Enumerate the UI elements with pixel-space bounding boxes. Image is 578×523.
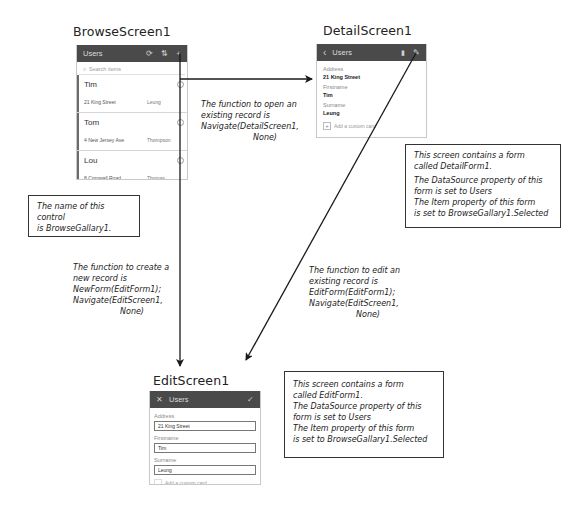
edit-header-title: Users — [169, 395, 239, 404]
plus-icon: + — [323, 122, 331, 130]
note-line: The function to edit an — [309, 265, 419, 276]
note-line: new record is — [73, 273, 183, 284]
add-custom-card[interactable]: + Add a custom card — [323, 122, 420, 130]
detail-form: Address 21 King Street Firstname Tim Sur… — [317, 61, 426, 131]
chevron-right-icon[interactable] — [177, 119, 184, 126]
edit-screen: ✕ Users ✓ Address 21 King Street Firstna… — [149, 391, 261, 485]
search-placeholder: Search items — [89, 66, 121, 72]
custom-card-label: Add a custom card — [165, 480, 207, 485]
field-label: Firstname — [154, 435, 256, 441]
note-line: called DetailForm1. — [414, 161, 552, 172]
chevron-right-icon[interactable] — [177, 157, 184, 164]
item-indicator — [77, 151, 79, 180]
browse-screen: Users ⟳ ⇅ + ⌕ Search items Tim 21 King S… — [76, 45, 188, 180]
note-line: The Item property of this form — [414, 197, 552, 208]
edit-icon[interactable]: ✎ — [413, 49, 420, 57]
note-line: form is set to Users — [414, 186, 552, 197]
note-line: existing record is — [309, 276, 419, 287]
item-indicator — [77, 113, 79, 150]
item-surname: Thompson — [147, 137, 171, 143]
box-edit-form: This screen contains a form called EditF… — [284, 371, 444, 458]
address-input[interactable]: 21 King Street — [154, 421, 256, 431]
close-icon[interactable]: ✕ — [156, 396, 163, 404]
item-address: 4 New Jersey Ave — [84, 137, 124, 143]
field-value: Leung — [323, 110, 420, 116]
item-surname: Thomas — [147, 175, 165, 180]
chevron-right-icon[interactable] — [177, 81, 184, 88]
note-line: This screen contains a form — [293, 379, 435, 390]
note-line: None) — [201, 132, 311, 143]
gallery-item[interactable]: Tom 4 New Jersey Ave Thompson — [77, 113, 187, 151]
edit-screen-title: EditScreen1 — [153, 373, 229, 388]
back-icon[interactable]: ‹ — [323, 48, 326, 58]
browse-screen-title: BrowseScreen1 — [73, 24, 171, 39]
box-detail-form: This screen contains a form called Detai… — [405, 144, 561, 228]
note-line: The DataSource property of this — [414, 175, 552, 186]
field-value: Tim — [323, 92, 420, 98]
note-create-record: The function to create a new record is N… — [73, 262, 183, 317]
note-line: The function to open an — [201, 99, 311, 110]
item-address: 21 King Street — [84, 99, 116, 105]
field-label: Surname — [323, 102, 420, 108]
sort-icon[interactable]: ⇅ — [161, 50, 168, 58]
delete-icon[interactable]: ▮ — [401, 49, 405, 56]
box-gallery-name: The name of this control is BrowseGallar… — [28, 195, 140, 237]
note-line: form is set to Users — [293, 412, 435, 423]
note-line: is set to BrowseGallary1.Selected — [414, 208, 552, 219]
note-line: The DataSource property of this — [293, 401, 435, 412]
add-custom-card[interactable]: Add a custom card — [154, 479, 256, 485]
plus-icon — [154, 479, 162, 485]
detail-header-title: Users — [332, 48, 393, 57]
note-edit-record: The function to edit an existing record … — [309, 265, 419, 320]
note-line: The Item property of this form — [293, 423, 435, 434]
note-line: The name of this control — [37, 201, 131, 223]
browse-header: Users ⟳ ⇅ + — [77, 45, 187, 62]
note-line: Navigate(DetailScreen1, — [201, 121, 311, 132]
custom-card-label: Add a custom card — [334, 123, 376, 129]
note-open-record: The function to open an existing record … — [201, 99, 311, 143]
note-line: This screen contains a form — [414, 150, 552, 161]
firstname-input[interactable]: Tim — [154, 443, 256, 453]
item-name: Tim — [84, 80, 97, 89]
gallery-item[interactable]: Lou 8 Cornwall Road Thomas — [77, 151, 187, 180]
note-line: NewForm(EditForm1); — [73, 284, 183, 295]
field-label: Address — [154, 413, 256, 419]
selected-indicator — [77, 75, 79, 112]
note-line: existing record is — [201, 110, 311, 121]
add-icon[interactable]: + — [176, 50, 181, 58]
field-label: Surname — [154, 457, 256, 463]
field-label: Firstname — [323, 84, 420, 90]
note-line: is set to BrowseGallary1.Selected — [293, 434, 435, 445]
edit-header: ✕ Users ✓ — [150, 391, 260, 408]
note-line: The function to create a — [73, 262, 183, 273]
browse-header-title: Users — [83, 49, 138, 58]
search-input[interactable]: ⌕ Search items — [79, 64, 185, 75]
item-surname: Leung — [147, 99, 161, 105]
surname-input[interactable]: Leung — [154, 465, 256, 475]
note-line: called EditForm1. — [293, 390, 435, 401]
note-line: is BrowseGallary1. — [37, 223, 131, 234]
checkmark-icon[interactable]: ✓ — [247, 396, 254, 404]
detail-header: ‹ Users ▮ ✎ — [317, 44, 426, 61]
detail-screen-title: DetailScreen1 — [323, 23, 412, 38]
search-icon: ⌕ — [83, 66, 86, 73]
edit-form: Address 21 King Street Firstname Tim Sur… — [150, 408, 260, 485]
browse-gallery: Tim 21 King Street Leung Tom 4 New Jerse… — [77, 75, 187, 180]
field-value: 21 King Street — [323, 74, 420, 80]
note-line: Navigate(EditScreen1, — [309, 298, 419, 309]
note-line: None) — [309, 309, 419, 320]
field-label: Address — [323, 66, 420, 72]
note-line: Navigate(EditScreen1, — [73, 295, 183, 306]
gallery-item[interactable]: Tim 21 King Street Leung — [77, 75, 187, 113]
note-line: EditForm(EditForm1); — [309, 287, 419, 298]
item-address: 8 Cornwall Road — [84, 175, 121, 180]
refresh-icon[interactable]: ⟳ — [146, 50, 153, 58]
item-name: Tom — [84, 118, 99, 127]
detail-screen: ‹ Users ▮ ✎ Address 21 King Street First… — [316, 44, 427, 138]
note-line: None) — [73, 306, 183, 317]
item-name: Lou — [84, 156, 97, 165]
